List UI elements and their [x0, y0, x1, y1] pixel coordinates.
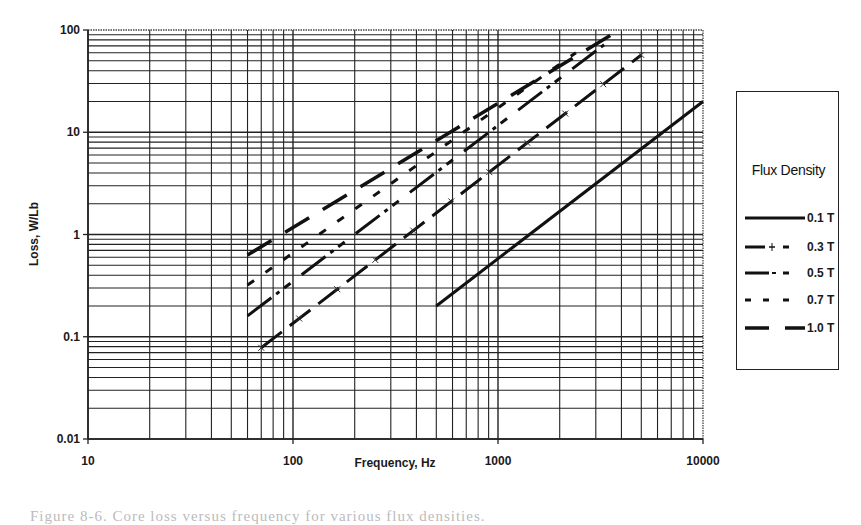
y-tick-label: 10: [67, 125, 81, 139]
solid-line-icon: [743, 210, 807, 226]
dash-marker-line-icon: [743, 239, 807, 255]
legend: Flux Density 0.1 T 0.3 T 0.5 T 0.7 T: [736, 91, 839, 370]
figure-caption: Figure 8-6. Core loss versus frequency f…: [30, 508, 486, 525]
legend-item-0-5t: 0.5 T: [743, 265, 838, 281]
x-axis-title: Frequency, Hz: [354, 456, 435, 470]
y-tick-label: 100: [60, 23, 80, 37]
legend-label: 0.3 T: [807, 240, 834, 254]
legend-item-0-1t: 0.1 T: [743, 210, 838, 226]
legend-label: 1.0 T: [807, 321, 834, 335]
y-tick-label: 0.1: [63, 330, 80, 344]
grid-lines: [88, 30, 703, 439]
legend-item-0-3t: 0.3 T: [743, 239, 838, 255]
legend-label: 0.1 T: [807, 211, 834, 225]
x-tick-label: 10: [81, 454, 95, 468]
x-tick-label: 10000: [686, 454, 720, 468]
x-tick-label: 100: [283, 454, 303, 468]
y-tick-label: 0.01: [57, 432, 81, 446]
legend-item-1-0t: 1.0 T: [743, 320, 838, 336]
y-tick-label: 1: [73, 228, 80, 242]
legend-title: Flux Density: [737, 162, 840, 178]
y-axis-title: Loss, W/Lb: [27, 202, 41, 266]
dash-dot-line-icon: [743, 265, 807, 281]
legend-label: 0.7 T: [807, 293, 834, 307]
data-series: [248, 30, 703, 351]
long-dash-line-icon: [743, 320, 807, 336]
x-tick-label: 1000: [485, 454, 512, 468]
legend-item-0-7t: 0.7 T: [743, 292, 838, 308]
y-axis-ticks: 0.010.1110100: [57, 23, 88, 446]
legend-label: 0.5 T: [807, 266, 834, 280]
short-dash-line-icon: [743, 292, 807, 308]
